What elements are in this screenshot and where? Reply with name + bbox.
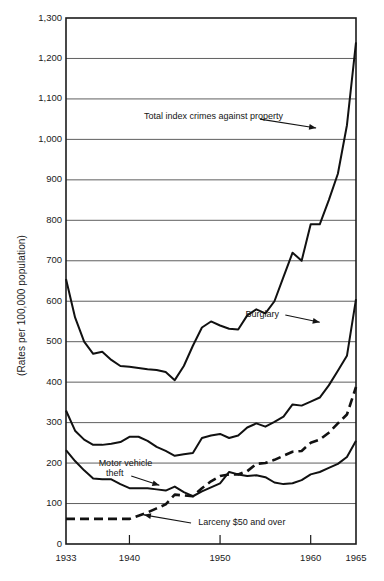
y-tick-label: 200 [18,458,62,467]
y-tick-label: 900 [18,174,62,183]
y-tick-label: 100 [18,498,62,507]
y-tick-label: 400 [18,377,62,386]
gridlines [66,58,356,503]
y-tick-label: 300 [18,417,62,426]
y-tick-label: 700 [18,255,62,264]
series-label-larceny: Larceny $50 and over [198,517,285,528]
y-tick-label: 0 [18,539,62,548]
y-tick-label: 1,200 [18,53,62,62]
x-axis-ticks [129,535,310,544]
x-tick-label: 1933 [46,552,86,563]
y-tick-label: 1,300 [18,13,62,22]
series-label-motor-vehicle-theft-line1: Motor vehicle [99,458,153,469]
x-tick-label: 1950 [200,552,240,563]
series-label-motor-vehicle-theft-line2: theft [106,468,124,479]
series-label-total-index-crimes: Total index crimes against property [144,111,283,122]
y-tick-label: 1,000 [18,134,62,143]
y-axis-tick-labels: 1,300 1,200 1,100 1,000 900 800 700 600 … [16,0,62,581]
y-tick-label: 600 [18,296,62,305]
y-tick-label: 1,100 [18,93,62,102]
series-label-burglary: Burglary [245,309,279,320]
x-tick-label: 1940 [109,552,149,563]
y-tick-label: 500 [18,336,62,345]
y-tick-label: 800 [18,215,62,224]
x-tick-label: 1960 [291,552,331,563]
crime-rate-line-chart: (Rates per 100,000 population) 1,300 1,2… [0,0,384,581]
x-tick-label: 1965 [336,552,376,563]
